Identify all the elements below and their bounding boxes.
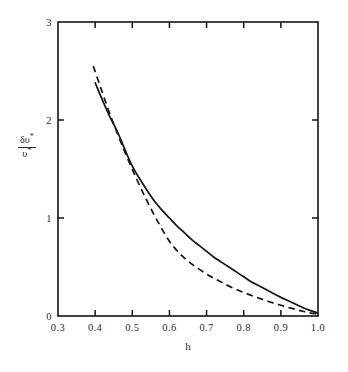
y-tick-label: 1: [38, 213, 52, 224]
plot-frame-box: [58, 22, 318, 316]
plot-area: [0, 0, 348, 372]
y-axis-denominator-star: *: [27, 145, 31, 154]
x-tick-label: 0.3: [51, 322, 65, 333]
y-tick-label: 3: [38, 17, 52, 28]
y-axis-title: δυ* υ*: [18, 135, 36, 159]
y-axis-numerator-symbol: δυ: [20, 134, 30, 145]
x-axis-title: h: [185, 340, 191, 352]
tick-marks: [58, 22, 318, 316]
x-tick-label: 0.4: [88, 322, 102, 333]
x-tick-label: 0.9: [274, 322, 288, 333]
y-axis-title-denominator: υ*: [18, 148, 36, 160]
x-tick-label: 0.5: [125, 322, 139, 333]
y-tick-label: 2: [38, 115, 52, 126]
dashed-curve-path: [93, 66, 318, 314]
x-tick-label: 0.8: [237, 322, 251, 333]
x-tick-label: 0.7: [199, 322, 213, 333]
x-axis-title-text: h: [185, 340, 191, 352]
data-curves: [93, 66, 318, 314]
figure-canvas: 0.30.40.50.60.70.80.91.0 0123 h δυ* υ*: [0, 0, 348, 372]
axis-frame: [58, 22, 318, 316]
y-axis-numerator-star: *: [30, 132, 34, 141]
x-tick-label: 1.0: [311, 322, 325, 333]
y-tick-label: 0: [38, 311, 52, 322]
solid-curve-path: [95, 83, 318, 313]
x-tick-label: 0.6: [162, 322, 176, 333]
